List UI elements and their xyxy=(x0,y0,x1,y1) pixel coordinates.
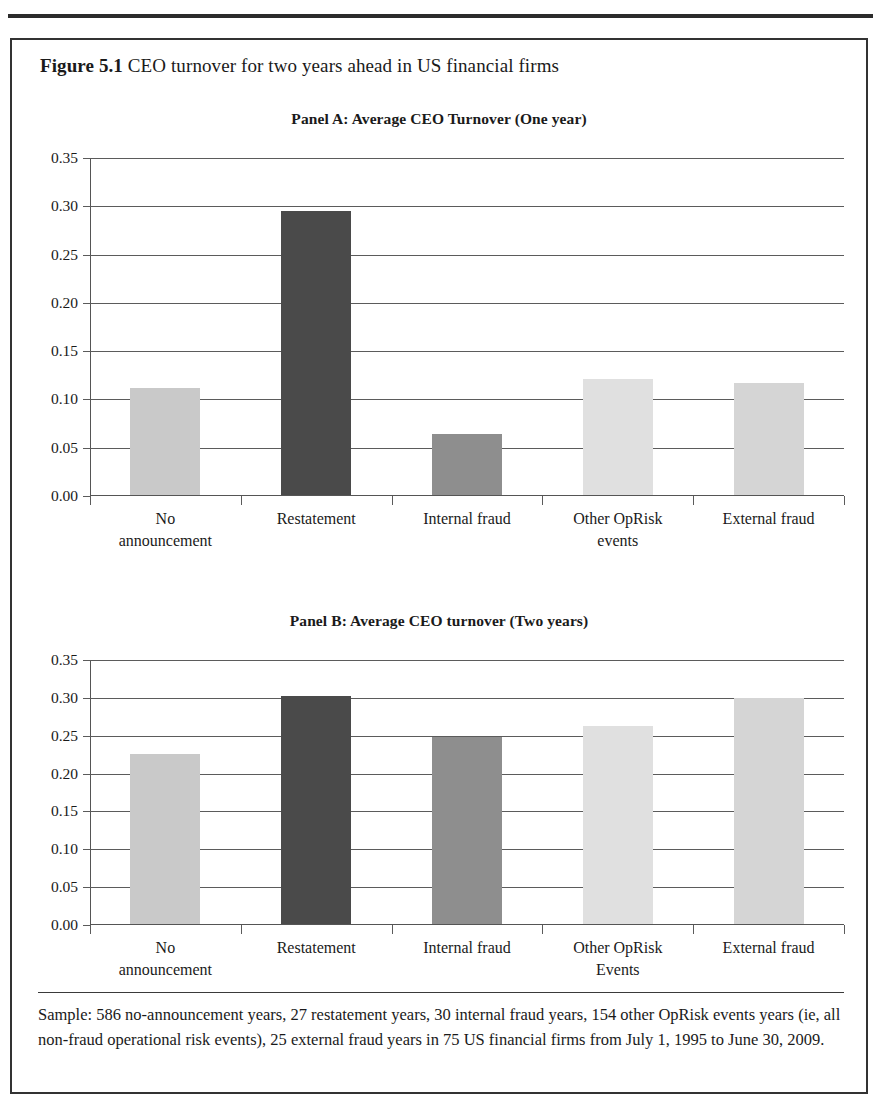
figure-caption: Sample: 586 no-announcement years, 27 re… xyxy=(38,1002,844,1052)
category-tick xyxy=(693,925,694,934)
category-tick xyxy=(844,496,845,505)
y-axis-tick xyxy=(83,399,90,400)
bar-b-3 xyxy=(583,726,653,924)
category-label-line: announcement xyxy=(91,959,240,981)
panel-b-title: Panel B: Average CEO turnover (Two years… xyxy=(12,612,866,630)
panel-b-category-labels: NoannouncementRestatementInternal fraudO… xyxy=(90,937,844,981)
y-axis-tick-label: 0.05 xyxy=(51,439,78,457)
bar-b-4 xyxy=(734,698,804,924)
category-label-2: Internal fraud xyxy=(392,937,543,981)
category-label-line: No xyxy=(91,937,240,959)
y-axis-tick-label: 0.00 xyxy=(51,916,78,934)
category-label-line: Other OpRisk xyxy=(543,508,692,530)
y-axis-tick xyxy=(83,774,90,775)
bar-slot xyxy=(693,158,844,495)
panel-a-category-labels: NoannouncementRestatementInternal fraudO… xyxy=(90,508,844,552)
y-axis-tick-label: 0.15 xyxy=(51,802,78,820)
y-axis-tick-label: 0.05 xyxy=(51,878,78,896)
bar-a-0 xyxy=(130,388,200,495)
category-tick xyxy=(241,925,242,934)
category-label-1: Restatement xyxy=(241,508,392,552)
bar-slot xyxy=(693,660,844,924)
bar-b-2 xyxy=(432,737,502,924)
panel-b-category-ticks xyxy=(90,925,844,934)
caption-divider xyxy=(38,992,844,993)
bar-slot xyxy=(392,660,543,924)
panel-a-plot-area: 0.350.300.250.200.150.100.050.00 Noannou… xyxy=(90,158,844,496)
category-tick xyxy=(241,496,242,505)
category-tick xyxy=(392,496,393,505)
category-label-1: Restatement xyxy=(241,937,392,981)
bar-b-1 xyxy=(281,696,351,924)
panel-b-plot-area: 0.350.300.250.200.150.100.050.00 Noannou… xyxy=(90,660,844,925)
category-label-2: Internal fraud xyxy=(392,508,543,552)
y-axis-tick xyxy=(83,660,90,661)
category-label-line: Restatement xyxy=(242,508,391,530)
panel-a-bars xyxy=(90,158,844,495)
y-axis-tick-label: 0.25 xyxy=(51,727,78,745)
figure-page: Figure 5.1 CEO turnover for two years ah… xyxy=(0,0,881,1112)
category-tick xyxy=(90,925,91,934)
y-axis-tick xyxy=(83,158,90,159)
category-label-line: Restatement xyxy=(242,937,391,959)
y-axis-tick xyxy=(83,736,90,737)
bar-slot xyxy=(241,158,392,495)
y-axis-tick-label: 0.20 xyxy=(51,765,78,783)
panel-b-bars xyxy=(90,660,844,924)
bar-b-0 xyxy=(130,754,200,924)
y-axis-tick-label: 0.10 xyxy=(51,390,78,408)
y-axis-tick-label: 0.00 xyxy=(51,487,78,505)
bar-a-4 xyxy=(734,383,804,495)
y-axis-tick xyxy=(83,887,90,888)
category-tick xyxy=(90,496,91,505)
y-axis-tick-label: 0.25 xyxy=(51,246,78,264)
bar-a-1 xyxy=(281,211,351,495)
bar-slot xyxy=(241,660,392,924)
category-tick xyxy=(844,925,845,934)
category-label-4: External fraud xyxy=(693,508,844,552)
figure-number: Figure 5.1 xyxy=(40,55,123,76)
y-axis-tick xyxy=(83,448,90,449)
category-label-line: events xyxy=(543,530,692,552)
category-label-line: announcement xyxy=(91,530,240,552)
panel-a-title: Panel A: Average CEO Turnover (One year) xyxy=(12,110,866,128)
y-axis-tick xyxy=(83,255,90,256)
y-axis-tick xyxy=(83,496,90,497)
category-tick xyxy=(542,496,543,505)
bar-slot xyxy=(392,158,543,495)
y-axis-tick xyxy=(83,849,90,850)
category-label-line: Internal fraud xyxy=(393,937,542,959)
panel-a-category-ticks xyxy=(90,496,844,505)
y-axis-tick-label: 0.35 xyxy=(51,149,78,167)
page-top-rule xyxy=(8,14,873,18)
category-label-0: Noannouncement xyxy=(90,937,241,981)
y-axis-tick-label: 0.30 xyxy=(51,197,78,215)
y-axis-tick xyxy=(83,811,90,812)
category-label-4: External fraud xyxy=(693,937,844,981)
category-label-0: Noannouncement xyxy=(90,508,241,552)
y-axis-tick-label: 0.15 xyxy=(51,342,78,360)
y-axis-tick xyxy=(83,351,90,352)
bar-a-3 xyxy=(583,379,653,495)
category-tick xyxy=(392,925,393,934)
figure-box: Figure 5.1 CEO turnover for two years ah… xyxy=(10,38,868,1094)
y-axis-tick-label: 0.20 xyxy=(51,294,78,312)
category-label-3: Other OpRiskEvents xyxy=(542,937,693,981)
category-label-line: External fraud xyxy=(694,937,843,959)
y-axis-tick-label: 0.30 xyxy=(51,689,78,707)
y-axis-tick xyxy=(83,303,90,304)
bar-a-2 xyxy=(432,434,502,495)
bar-slot xyxy=(90,660,241,924)
panel-a-chart: 0.350.300.250.200.150.100.050.00 Noannou… xyxy=(12,150,866,560)
y-axis-tick xyxy=(83,206,90,207)
y-axis-tick-label: 0.35 xyxy=(51,651,78,669)
y-axis-tick-label: 0.10 xyxy=(51,840,78,858)
y-axis-tick xyxy=(83,698,90,699)
panel-b-chart: 0.350.300.250.200.150.100.050.00 Noannou… xyxy=(12,652,866,982)
category-label-line: No xyxy=(91,508,240,530)
bar-slot xyxy=(542,158,693,495)
category-label-line: Other OpRisk xyxy=(543,937,692,959)
figure-title-text: CEO turnover for two years ahead in US f… xyxy=(128,55,559,76)
y-axis-tick xyxy=(83,925,90,926)
category-label-line: Events xyxy=(543,959,692,981)
